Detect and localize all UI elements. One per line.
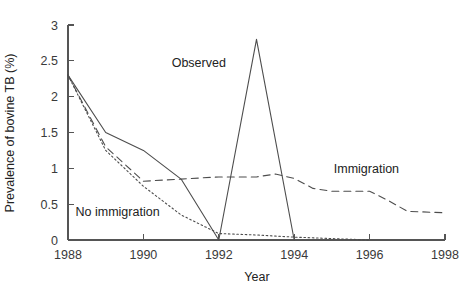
tick-labels-group: 00.511.522.53198819901992199419961998 <box>41 19 459 263</box>
chart-figure: 00.511.522.53198819901992199419961998 Ob… <box>0 0 471 288</box>
series-line-immigration <box>68 75 445 213</box>
x-axis-title: Year <box>244 270 269 284</box>
y-tick-label-1: 1 <box>51 162 58 176</box>
y-tick-label-2: 2 <box>51 90 58 104</box>
x-tick-label-1998: 1998 <box>431 248 459 262</box>
y-axis-title: Prevalence of bovine TB (%) <box>3 54 17 213</box>
y-tick-label-1.5: 1.5 <box>41 126 58 140</box>
x-tick-label-1988: 1988 <box>54 248 82 262</box>
y-tick-label-2.5: 2.5 <box>41 54 58 68</box>
x-tick-label-1996: 1996 <box>356 248 384 262</box>
y-tick-label-3: 3 <box>51 19 58 33</box>
y-tick-label-0: 0 <box>51 234 58 248</box>
x-tick-label-1994: 1994 <box>280 248 308 262</box>
annotation-immigration: Immigration <box>334 162 399 176</box>
annotation-observed: Observed <box>172 56 226 70</box>
chart-canvas: 00.511.522.53198819901992199419961998 Ob… <box>0 0 471 288</box>
annotation-no-immigration: No immigration <box>76 205 160 219</box>
annotations-group: ObservedImmigrationNo immigration <box>76 56 400 220</box>
y-tick-label-0.5: 0.5 <box>41 198 58 212</box>
x-tick-label-1992: 1992 <box>205 248 233 262</box>
x-tick-label-1990: 1990 <box>129 248 157 262</box>
